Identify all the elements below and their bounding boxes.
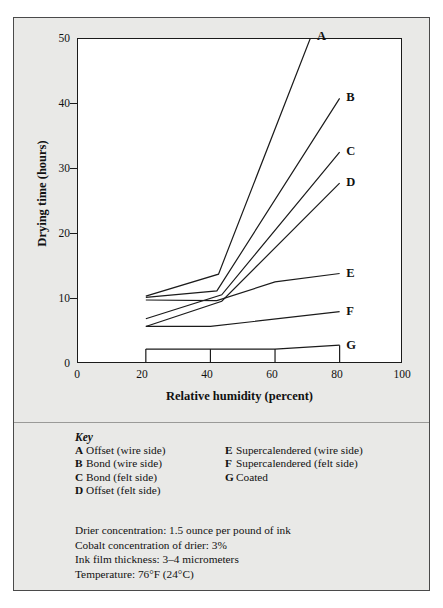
- series-label-E: E: [346, 265, 354, 280]
- note-line-1: Drier concentration: 1.5 ounce per pound…: [75, 523, 415, 538]
- y-tick-label-40: 40: [40, 97, 70, 109]
- series-label-C: C: [346, 143, 355, 158]
- key-row-E: ESupercalendered (wire side): [225, 444, 415, 457]
- figure-container: Drying time (hours) 01020304050 02040608…: [13, 17, 430, 591]
- series-line-F: [146, 312, 340, 327]
- key-text-D: Offset (felt side): [86, 484, 160, 496]
- y-tick-mark-40: [70, 103, 77, 104]
- series-label-B: B: [346, 89, 354, 104]
- key-row-D: DOffset (felt side): [75, 484, 225, 497]
- x-tick-label-0: 0: [57, 368, 97, 380]
- section-divider: [14, 422, 429, 423]
- key-row-G: GCoated: [225, 471, 415, 484]
- key-text-A: Offset (wire side): [86, 444, 165, 456]
- key-letter-A: A: [75, 444, 86, 457]
- key-row-A: AOffset (wire side): [75, 444, 225, 457]
- key-letter-C: C: [75, 471, 86, 484]
- key-row-F: FSupercalendered (felt side): [225, 457, 415, 470]
- x-tick-label-100: 100: [382, 368, 422, 380]
- y-tick-label-50: 50: [40, 32, 70, 44]
- note-line-3: Ink film thickness: 3–4 micrometers: [75, 552, 415, 567]
- series-label-A: A: [317, 28, 326, 43]
- series-line-A: [146, 39, 311, 296]
- series-label-G: G: [346, 338, 356, 353]
- key-row-C: CBond (felt side): [75, 471, 225, 484]
- key-text-F: Supercalendered (felt side): [236, 457, 358, 469]
- key-column-left: AOffset (wire side)BBond (wire side)CBon…: [75, 444, 225, 498]
- note-line-2: Cobalt concentration of drier: 3%: [75, 538, 415, 553]
- series-label-D: D: [346, 174, 355, 189]
- key-title: Key: [75, 431, 415, 443]
- series-line-C: [146, 152, 340, 319]
- series-line-D: [146, 183, 340, 326]
- series-line-B: [146, 98, 340, 297]
- key-text-B: Bond (wire side): [86, 457, 162, 469]
- key-text-G: Coated: [236, 471, 268, 483]
- key-column-right: ESupercalendered (wire side)FSupercalend…: [225, 444, 415, 484]
- key-letter-E: E: [225, 444, 236, 457]
- key-letter-D: D: [75, 484, 86, 497]
- y-axis-tick-labels: 01020304050: [36, 38, 70, 363]
- y-tick-label-30: 30: [40, 162, 70, 174]
- key-row-B: BBond (wire side): [75, 457, 225, 470]
- note-line-4: Temperature: 76°F (24°C): [75, 567, 415, 582]
- key-letter-B: B: [75, 457, 86, 470]
- y-tick-mark-10: [70, 298, 77, 299]
- key-block: Key AOffset (wire side)BBond (wire side)…: [75, 431, 415, 444]
- y-tick-mark-20: [70, 233, 77, 234]
- x-tick-label-40: 40: [187, 368, 227, 380]
- series-line-G: [146, 345, 340, 349]
- key-text-C: Bond (felt side): [86, 471, 157, 483]
- x-axis-title: Relative humidity (percent): [77, 389, 402, 404]
- chart-region: Drying time (hours) 01020304050 02040608…: [14, 18, 429, 397]
- x-tick-label-20: 20: [122, 368, 162, 380]
- x-axis-tick-labels: 020406080100: [77, 368, 402, 386]
- notes-block: Drier concentration: 1.5 ounce per pound…: [75, 523, 415, 581]
- key-text-E: Supercalendered (wire side): [236, 444, 363, 456]
- y-tick-label-10: 10: [40, 292, 70, 304]
- key-letter-F: F: [225, 457, 236, 470]
- series-label-F: F: [346, 304, 354, 319]
- x-tick-label-80: 80: [317, 368, 357, 380]
- y-tick-mark-30: [70, 168, 77, 169]
- x-tick-label-60: 60: [252, 368, 292, 380]
- y-tick-label-20: 20: [40, 227, 70, 239]
- key-letter-G: G: [225, 471, 236, 484]
